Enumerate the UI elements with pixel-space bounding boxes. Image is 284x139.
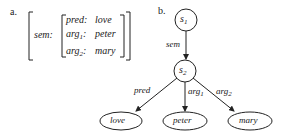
node-s2-label: s2 [179,64,186,77]
node-peter-label: peter [173,115,192,125]
node-mary-label: mary [239,115,258,125]
edge-sem-label: sem [166,39,180,49]
edge-arg1-label: arg1 [188,86,204,98]
edge-pred-label: pred [134,85,150,95]
edge-arg2-label: arg2 [216,86,232,98]
node-s1-label: s1 [180,13,187,26]
node-love-label: love [110,115,125,125]
